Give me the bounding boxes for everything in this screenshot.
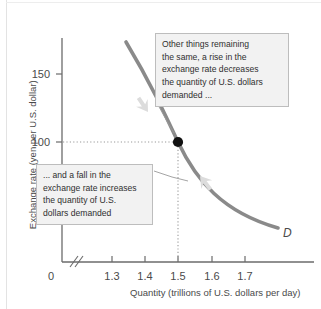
annotation-rise-line-2: the same, a rise in the xyxy=(162,51,283,64)
x-origin-label-0: 0 xyxy=(41,271,61,282)
annotation-box-rise: Other things remaining the same, a rise … xyxy=(155,33,289,107)
x-tick-label-1point5: 1.5 xyxy=(164,271,192,282)
annotation-rise-line-5: demanded ... xyxy=(162,89,283,102)
annotation-rise-line-3: exchange rate decreases xyxy=(162,63,283,76)
annotation-rise-line-4: the quantity of U.S. dollars xyxy=(162,76,283,89)
annotation-box-fall: ... and a fall in the exchange rate incr… xyxy=(36,164,153,225)
figure-container: 150 100 50 0 1.3 1.4 1.5 1.6 1.7 Quantit… xyxy=(0,0,321,309)
x-tick-label-1point3: 1.3 xyxy=(98,271,126,282)
annotation-fall-line-4: dollars demanded xyxy=(43,207,147,220)
x-tick-label-1point7: 1.7 xyxy=(231,271,259,282)
arrow-up-left-icon xyxy=(133,94,154,116)
annotation-fall-line-1: ... and a fall in the xyxy=(43,169,147,182)
leader-line-rise xyxy=(158,105,174,133)
annotation-fall-line-2: exchange rate increases xyxy=(43,182,147,195)
x-axis-title: Quantity (trillions of U.S. dollars per … xyxy=(130,288,301,298)
x-tick-label-1point6: 1.6 xyxy=(198,271,226,282)
annotation-fall-line-3: the quantity of U.S. xyxy=(43,194,147,207)
demand-curve-label: D xyxy=(283,227,292,239)
point-marker-1point5-100 xyxy=(173,137,183,147)
x-tick-label-1point4: 1.4 xyxy=(131,271,159,282)
annotation-rise-line-1: Other things remaining xyxy=(162,38,283,51)
leader-line-fall xyxy=(154,171,188,181)
